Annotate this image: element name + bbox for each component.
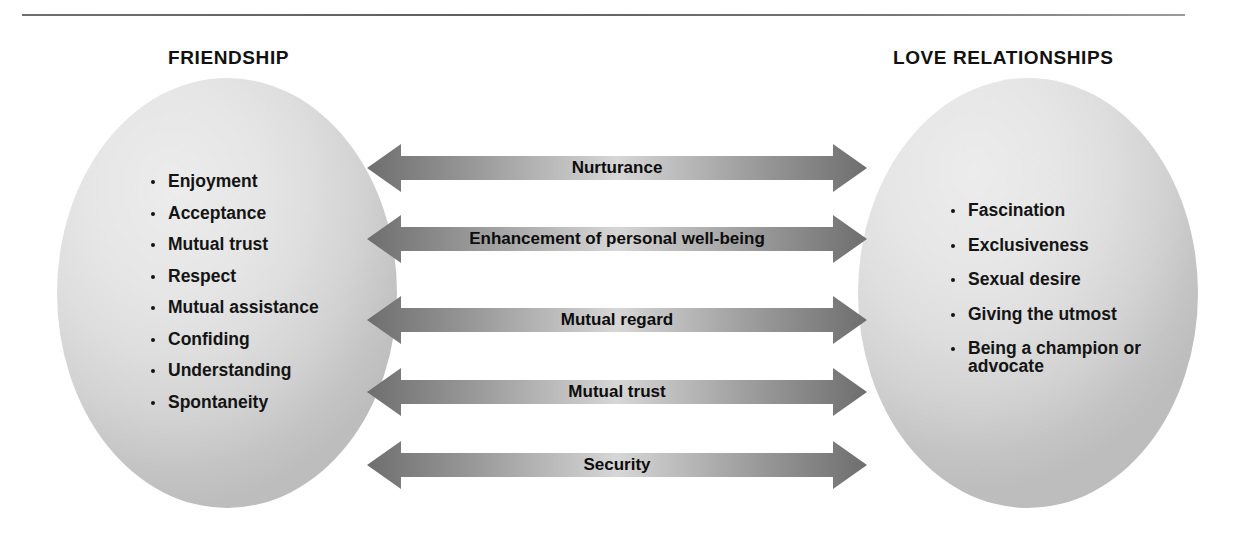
list-item: Respect [148,268,398,286]
connector-arrow-nurturance: Nurturance [367,140,867,196]
list-item-label: Fascination [968,202,1183,220]
list-item: Giving the utmost [948,306,1183,324]
list-item: Mutual assistance [148,299,398,317]
bullet-dot-icon [151,401,155,405]
connector-arrow-enhancement: Enhancement of personal well-being [367,212,867,266]
list-item: Acceptance [148,205,398,223]
list-item: Enjoyment [148,173,398,191]
list-item-label: Exclusiveness [968,237,1183,255]
list-item: Mutual trust [148,236,398,254]
connector-arrow-security: Security [367,437,867,493]
list-item: Understanding [148,362,398,380]
list-item-label: Enjoyment [168,173,398,191]
love-relationships-attribute-list: Fascination Exclusiveness Sexual desire … [948,202,1183,392]
bullet-dot-icon [151,180,155,184]
double-arrow-icon [367,364,867,420]
bullet-dot-icon [151,369,155,373]
bullet-dot-icon [951,209,955,213]
list-item-label: Sexual desire [968,271,1183,289]
friendship-heading: FRIENDSHIP [168,47,289,69]
list-item-label: Acceptance [168,205,398,223]
bullet-dot-icon [951,347,955,351]
diagram-canvas: FRIENDSHIP LOVE RELATIONSHIPS Enjoyment … [0,0,1242,553]
list-item-label: Spontaneity [168,394,398,412]
bullet-dot-icon [151,306,155,310]
bullet-dot-icon [151,338,155,342]
connector-arrow-mutual-trust: Mutual trust [367,364,867,420]
list-item-label: Confiding [168,331,398,349]
bullet-dot-icon [151,275,155,279]
bullet-dot-icon [151,243,155,247]
top-divider-rule [22,14,1185,16]
list-item-label: Giving the utmost [968,306,1183,324]
list-item-label: Being a champion or advocate [968,340,1183,375]
friendship-attribute-list: Enjoyment Acceptance Mutual trust Respec… [148,173,398,425]
bullet-dot-icon [151,212,155,216]
list-item: Being a champion or advocate [948,340,1183,375]
list-item-label: Mutual trust [168,236,398,254]
list-item: Spontaneity [148,394,398,412]
connector-arrow-mutual-regard: Mutual regard [367,292,867,348]
list-item: Confiding [148,331,398,349]
double-arrow-icon [367,140,867,196]
list-item: Fascination [948,202,1183,220]
double-arrow-icon [367,292,867,348]
list-item-label: Respect [168,268,398,286]
list-item-label: Mutual assistance [168,299,398,317]
double-arrow-icon [367,437,867,493]
bullet-dot-icon [951,244,955,248]
list-item: Sexual desire [948,271,1183,289]
double-arrow-icon [367,212,867,266]
list-item-label: Understanding [168,362,398,380]
bullet-dot-icon [951,278,955,282]
bullet-dot-icon [951,313,955,317]
list-item: Exclusiveness [948,237,1183,255]
love-relationships-heading: LOVE RELATIONSHIPS [893,47,1114,69]
